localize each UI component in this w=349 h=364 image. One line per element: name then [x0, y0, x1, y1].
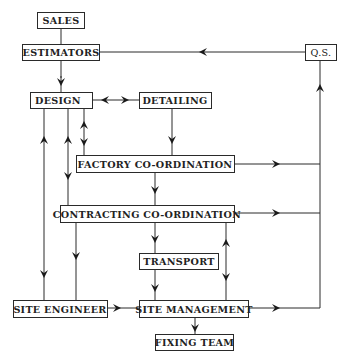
node-site-engineer: SITE ENGINEER — [13, 301, 107, 318]
node-label: SITE MANAGEMENT — [135, 304, 253, 315]
node-site-management: SITE MANAGEMENT — [135, 301, 253, 318]
node-label: CONTRACTING CO-ORDINATION — [53, 209, 241, 220]
node-contracting-coordination: CONTRACTING CO-ORDINATION — [53, 206, 241, 223]
node-transport: TRANSPORT — [140, 254, 219, 270]
node-factory-coordination: FACTORY CO-ORDINATION — [77, 156, 235, 173]
node-label: ESTIMATORS — [23, 47, 100, 58]
flowchart: SALES ESTIMATORS Q.S. DESIGN DETAILING F… — [0, 0, 349, 364]
node-label: FACTORY CO-ORDINATION — [78, 159, 233, 170]
node-estimators: ESTIMATORS — [23, 45, 100, 61]
connectors — [40, 28, 324, 334]
node-design: DESIGN — [31, 93, 93, 109]
node-detailing: DETAILING — [140, 93, 212, 109]
node-label: DETAILING — [142, 95, 207, 106]
node-label: FIXING TEAM — [155, 337, 234, 348]
node-label: SITE ENGINEER — [13, 304, 107, 315]
node-label: SALES — [43, 15, 80, 26]
node-label: Q.S. — [311, 47, 332, 58]
node-label: DESIGN — [35, 95, 81, 106]
node-fixing-team: FIXING TEAM — [155, 335, 234, 351]
node-label: TRANSPORT — [143, 256, 215, 267]
node-sales: SALES — [38, 13, 85, 29]
node-qs: Q.S. — [306, 45, 337, 61]
